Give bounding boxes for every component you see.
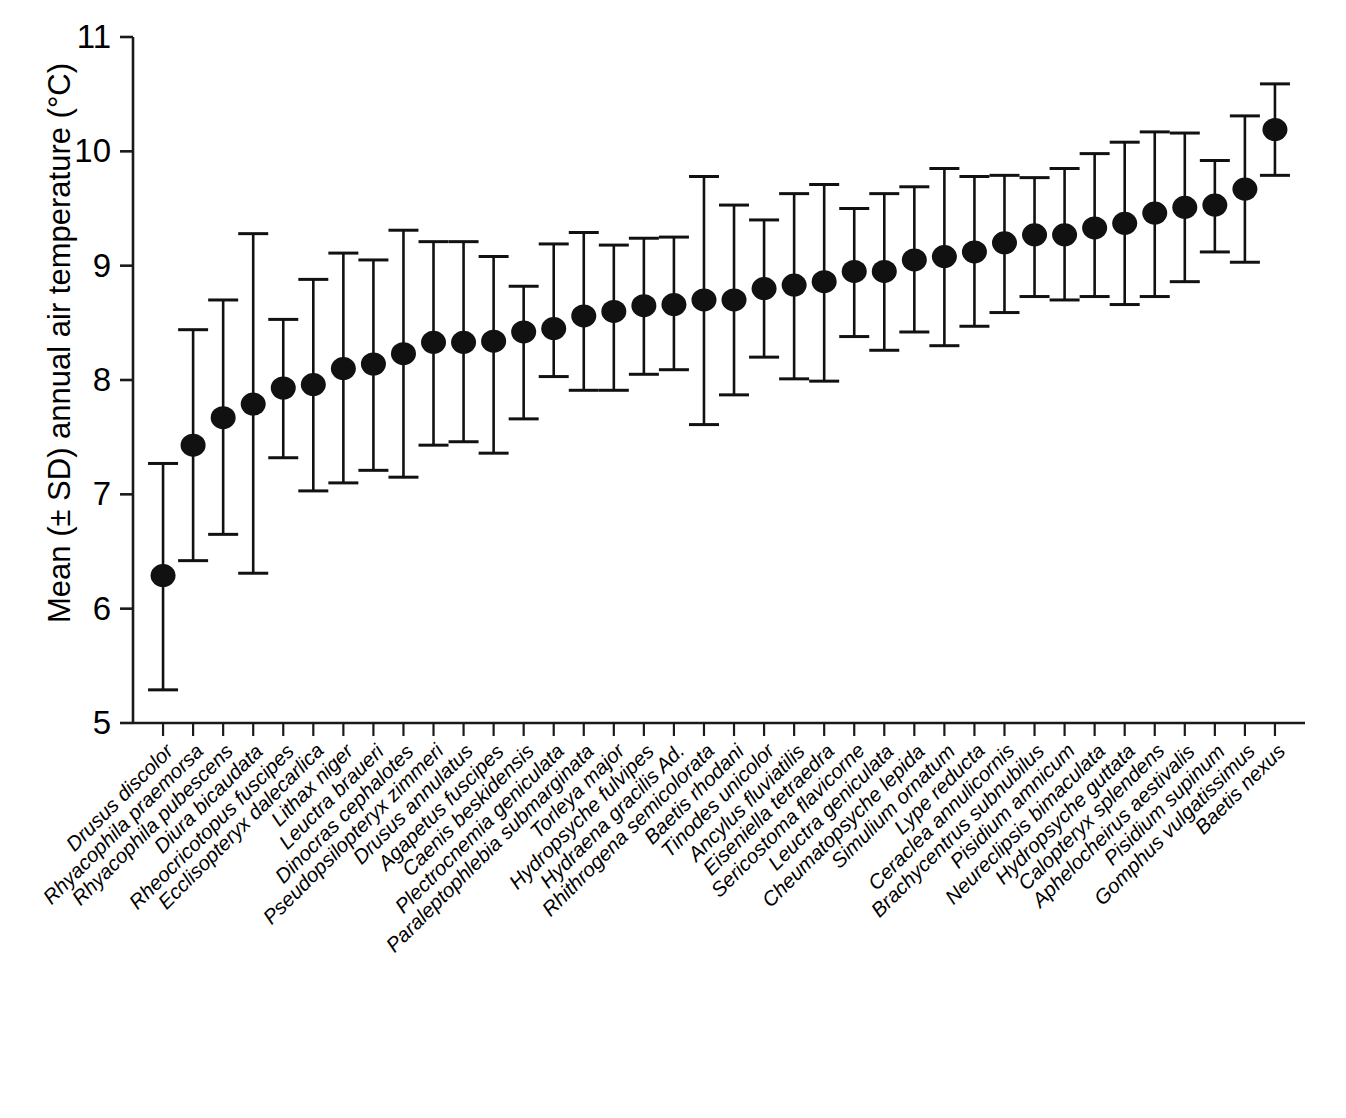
data-point-group (358, 260, 388, 470)
data-point-marker (511, 320, 536, 343)
data-point-marker (331, 357, 356, 380)
data-point-marker (271, 377, 296, 400)
data-point-marker (782, 274, 807, 297)
data-point-group (629, 238, 659, 374)
data-point-marker (932, 245, 957, 268)
data-point-marker (691, 288, 716, 311)
data-point-marker (301, 373, 326, 396)
y-axis-tick-label: 10 (74, 132, 111, 169)
data-point-group (449, 242, 479, 442)
data-point-marker (151, 564, 176, 587)
data-point-group (929, 168, 959, 345)
data-point-marker (631, 294, 656, 317)
data-point-marker (1232, 178, 1257, 201)
data-point-group (749, 220, 779, 357)
data-point-group (298, 279, 328, 491)
data-point-group (1080, 154, 1110, 297)
data-point-marker (1202, 194, 1227, 217)
data-point-marker (902, 248, 927, 271)
data-point-group (1170, 133, 1200, 282)
data-point-marker (872, 260, 897, 283)
data-point-group (1050, 168, 1080, 299)
data-point-group (1200, 160, 1230, 251)
data-point-group (388, 230, 418, 477)
data-point-marker (211, 406, 236, 429)
data-point-group (479, 257, 509, 454)
data-point-group (1110, 142, 1140, 304)
data-point-group (419, 242, 449, 446)
data-point-group (328, 253, 358, 483)
data-point-marker (1262, 118, 1287, 141)
data-point-marker (361, 352, 386, 375)
data-point-marker (1172, 196, 1197, 219)
data-point-group (689, 176, 719, 424)
data-point-marker (722, 288, 747, 311)
y-axis-tick-label: 9 (93, 247, 111, 284)
data-point-marker (541, 317, 566, 340)
data-point-group (509, 286, 539, 419)
data-point-marker (421, 331, 446, 354)
data-point-group (839, 209, 869, 337)
y-axis-tick-label: 11 (77, 18, 111, 55)
data-point-marker (241, 393, 266, 416)
data-point-group (1230, 116, 1260, 262)
data-point-group (869, 194, 899, 351)
data-point-marker (1052, 223, 1077, 246)
data-point-marker (752, 277, 777, 300)
data-point-group (959, 176, 989, 326)
data-point-group (659, 237, 689, 370)
y-axis-tick-label: 8 (93, 361, 111, 398)
data-point-marker (1142, 202, 1167, 225)
y-axis-tick-label: 5 (93, 704, 111, 741)
data-point-marker (842, 260, 867, 283)
data-point-group (178, 330, 208, 561)
data-point-group (1140, 132, 1170, 297)
data-point-group (989, 175, 1019, 312)
data-point-group (809, 184, 839, 381)
data-point-marker (571, 304, 596, 327)
data-point-group (899, 187, 929, 332)
data-point-marker (451, 331, 476, 354)
data-point-marker (1022, 223, 1047, 246)
y-axis-tick-label: 7 (93, 475, 111, 512)
data-point-group (569, 233, 599, 391)
data-point-marker (601, 300, 626, 323)
plot-area: 567891011 (0, 0, 1346, 1118)
data-point-marker (962, 240, 987, 263)
figure-container: Mean (± SD) annual air temperature (°C) … (0, 0, 1346, 1118)
data-point-marker (1112, 212, 1137, 235)
data-point-marker (391, 342, 416, 365)
data-point-marker (181, 434, 206, 457)
data-point-group (1260, 84, 1290, 175)
data-point-group (719, 205, 749, 395)
data-point-group (148, 463, 178, 689)
data-point-group (238, 234, 268, 574)
data-point-marker (661, 293, 686, 316)
data-point-group (779, 194, 809, 379)
data-point-group (539, 244, 569, 377)
data-point-marker (1082, 216, 1107, 239)
data-point-group (208, 300, 238, 534)
data-point-marker (992, 231, 1017, 254)
data-point-marker (812, 270, 837, 293)
y-axis-tick-label: 6 (93, 590, 111, 627)
data-point-group (268, 319, 298, 457)
data-point-marker (481, 330, 506, 353)
data-point-group (599, 245, 629, 390)
data-point-group (1020, 178, 1050, 297)
